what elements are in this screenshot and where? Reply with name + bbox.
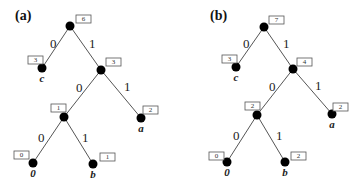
node-weight: 6 xyxy=(82,15,86,23)
leaf-symbol-label: c xyxy=(40,72,45,84)
tree-node-dot xyxy=(253,111,262,120)
tree-edge xyxy=(293,69,332,114)
node-weight: 0 xyxy=(215,152,219,160)
edge-bit-label: 1 xyxy=(82,130,89,145)
node-weight: 3 xyxy=(228,55,232,63)
edge-bit-label: 0 xyxy=(76,80,83,95)
edge-bit-label: 1 xyxy=(315,78,322,93)
leaf-symbol-label: a xyxy=(138,122,144,134)
tree-node-dot xyxy=(66,22,75,31)
node-weight: 2 xyxy=(339,103,343,111)
leaf-symbol-label: 0 xyxy=(224,166,230,178)
edge-bit-label: 0 xyxy=(269,79,276,94)
tree-edge xyxy=(64,70,101,117)
tree-edge xyxy=(227,115,257,162)
edge-bit-label: 0 xyxy=(50,36,57,51)
node-weight: 2 xyxy=(149,106,153,114)
node-weight: 2 xyxy=(297,152,301,160)
tree-node-dot xyxy=(60,113,69,122)
tree-edge xyxy=(64,117,93,164)
tree-edge xyxy=(236,27,264,67)
leaf-symbol-label: b xyxy=(282,166,288,178)
node-weight: 1 xyxy=(106,153,110,161)
node-weight: 7 xyxy=(275,16,279,24)
panel-title: (a) xyxy=(15,8,32,24)
node-weight: 2 xyxy=(251,102,255,110)
edge-bit-label: 0 xyxy=(233,128,240,143)
node-weight: 1 xyxy=(57,104,61,112)
panel-title: (b) xyxy=(210,8,227,24)
tree-node-dot xyxy=(97,66,106,75)
tree-panel-a: (a)01010163c312a001b xyxy=(14,8,158,180)
leaf-symbol-label: b xyxy=(90,168,96,180)
leaf-symbol-label: 0 xyxy=(30,167,36,179)
node-weight: 3 xyxy=(34,56,38,64)
node-weight: 4 xyxy=(303,58,307,66)
tree-edge xyxy=(101,70,141,118)
edge-bit-label: 1 xyxy=(276,128,283,143)
edge-bit-label: 1 xyxy=(124,79,131,94)
leaf-symbol-label: a xyxy=(329,118,335,130)
tree-node-dot xyxy=(289,65,298,74)
edge-bit-label: 0 xyxy=(243,36,250,51)
huffman-trees-diagram: (a)01010163c312a001b(b)01010173c422a002b xyxy=(0,0,363,190)
node-weight: 0 xyxy=(20,151,24,159)
node-weight: 3 xyxy=(112,58,116,66)
leaf-symbol-label: c xyxy=(234,71,239,83)
edge-bit-label: 0 xyxy=(38,130,45,145)
tree-panel-b: (b)01010173c422a002b xyxy=(209,8,348,178)
edge-bit-label: 1 xyxy=(283,36,290,51)
tree-node-dot xyxy=(260,23,269,32)
edge-bit-label: 1 xyxy=(89,36,96,51)
tree-edge xyxy=(70,26,101,70)
